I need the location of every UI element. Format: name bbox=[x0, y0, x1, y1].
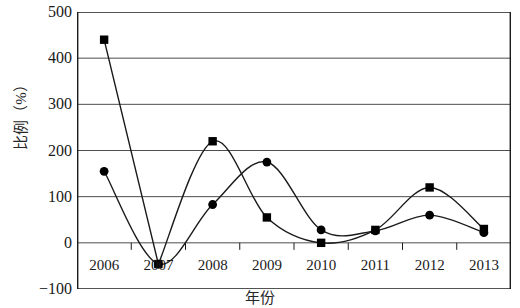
y-tick-label: 300 bbox=[6, 96, 72, 112]
x-axis-title: 年份 bbox=[0, 286, 520, 307]
line-chart: 比例（%） 5004003002001000−100 2006200720082… bbox=[0, 0, 520, 308]
data-point-square bbox=[317, 239, 325, 247]
x-tick-label: 2009 bbox=[240, 254, 294, 278]
y-axis-tick-labels: 5004003002001000−100 bbox=[0, 0, 72, 308]
x-tick-label: 2012 bbox=[403, 254, 457, 278]
data-point-circle bbox=[208, 200, 217, 209]
plot-svg bbox=[77, 12, 511, 289]
data-point-square bbox=[425, 183, 433, 191]
data-point-square bbox=[263, 213, 271, 221]
data-point-circle bbox=[262, 158, 271, 167]
x-axis-tick-labels: 20062007200820092010201120122013 bbox=[77, 254, 511, 278]
x-tick-label: 2013 bbox=[457, 254, 511, 278]
y-tick-label: 0 bbox=[6, 235, 72, 251]
data-point-circle bbox=[371, 226, 380, 235]
y-tick-label: 500 bbox=[6, 4, 72, 20]
y-tick-label: 400 bbox=[6, 50, 72, 66]
y-tick-label: 200 bbox=[6, 143, 72, 159]
series-line-square bbox=[104, 40, 484, 264]
data-point-circle bbox=[425, 211, 434, 220]
x-tick-label: 2008 bbox=[186, 254, 240, 278]
y-tick-label: 100 bbox=[6, 189, 72, 205]
x-tick-label: 2011 bbox=[348, 254, 402, 278]
x-tick-label: 2010 bbox=[294, 254, 348, 278]
data-point-square bbox=[208, 137, 216, 145]
x-tick-label: 2007 bbox=[131, 254, 185, 278]
x-tick-label: 2006 bbox=[77, 254, 131, 278]
plot-area bbox=[77, 12, 511, 289]
data-point-square bbox=[100, 36, 108, 44]
data-point-circle bbox=[479, 228, 488, 237]
data-point-circle bbox=[100, 167, 109, 176]
data-point-circle bbox=[317, 226, 326, 235]
